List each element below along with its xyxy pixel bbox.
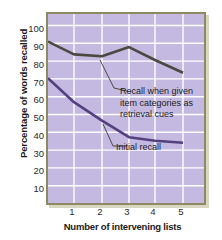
y-axis-tick-labels: 100 90 80 70 60 50 40 30 20 10 xyxy=(16,0,44,240)
y-tick-label: 80 xyxy=(20,60,44,70)
annotation-line: Recall when given xyxy=(120,86,193,98)
recall-line-chart: Percentage of words recalled 100 90 80 7… xyxy=(0,0,222,240)
annotation-line: item categories as xyxy=(120,98,193,110)
y-tick-label: 10 xyxy=(20,184,44,194)
series-line-cued xyxy=(48,42,183,73)
annotation-line: retrieval cues xyxy=(120,109,193,121)
y-tick-label: 60 xyxy=(20,95,44,105)
y-tick-label: 20 xyxy=(20,166,44,176)
y-tick-label: 70 xyxy=(20,78,44,88)
y-tick-label: 40 xyxy=(20,131,44,141)
x-tick-label: 3 xyxy=(119,206,135,217)
y-tick-label: 30 xyxy=(20,149,44,159)
annotation-line: Initial recall xyxy=(116,142,161,154)
y-tick-label: 50 xyxy=(20,113,44,123)
annotation-cued-recall: Recall when given item categories as ret… xyxy=(120,86,193,121)
y-tick-label: 100 xyxy=(20,24,44,34)
y-tick-label: 90 xyxy=(20,42,44,52)
x-tick-label: 2 xyxy=(92,206,108,217)
x-tick-label: 4 xyxy=(145,206,161,217)
x-axis-title: Number of intervening lists xyxy=(30,221,215,232)
x-tick-label: 5 xyxy=(173,206,189,217)
annotation-initial-recall: Initial recall xyxy=(116,142,161,154)
x-tick-label: 1 xyxy=(64,206,80,217)
